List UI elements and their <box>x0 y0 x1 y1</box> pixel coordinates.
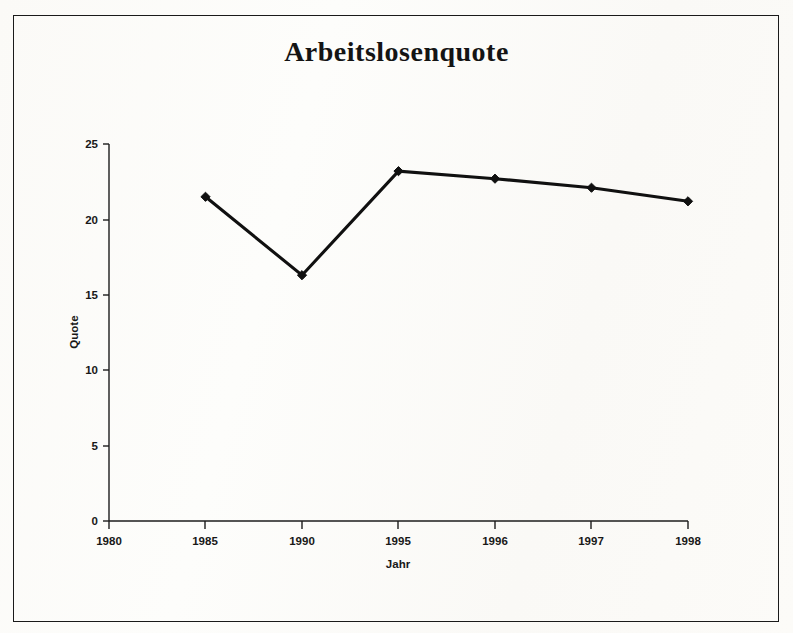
x-axis-tick-labels: 1980 1985 1990 1995 1996 1997 1998 <box>96 535 701 547</box>
x-tick-label-1997: 1997 <box>578 535 604 547</box>
x-tick-label-1998: 1998 <box>675 535 701 547</box>
plot-area: 0 5 10 15 20 25 Quote 1980 <box>0 0 793 633</box>
y-tick-label-15: 15 <box>85 289 98 301</box>
y-tick-label-20: 20 <box>85 214 98 226</box>
y-tick-label-0: 0 <box>92 515 98 527</box>
x-tick-label-1985: 1985 <box>192 535 218 547</box>
x-tick-label-1980: 1980 <box>96 535 122 547</box>
x-tick-label-1996: 1996 <box>482 535 508 547</box>
y-tick-label-10: 10 <box>85 364 98 376</box>
x-tick-label-1990: 1990 <box>289 535 315 547</box>
y-axis-title: Quote <box>68 315 80 348</box>
data-point-marker <box>490 174 499 183</box>
y-tick-label-25: 25 <box>85 138 98 150</box>
data-point-marker <box>587 183 596 192</box>
chart-page: Arbeitslosenquote 0 5 10 15 20 <box>0 0 793 633</box>
x-axis-title: Jahr <box>386 558 411 570</box>
y-axis-tick-labels: 0 5 10 15 20 25 <box>85 138 98 527</box>
y-tick-label-5: 5 <box>92 440 99 452</box>
x-tick-label-1995: 1995 <box>385 535 411 547</box>
series-line-arbeitslosenquote <box>206 171 689 275</box>
x-axis-ticks <box>109 521 688 529</box>
y-axis-ticks <box>103 144 109 521</box>
series-markers <box>201 167 693 280</box>
data-point-marker <box>683 197 692 206</box>
line-chart-svg: 0 5 10 15 20 25 Quote 1980 <box>0 0 793 633</box>
